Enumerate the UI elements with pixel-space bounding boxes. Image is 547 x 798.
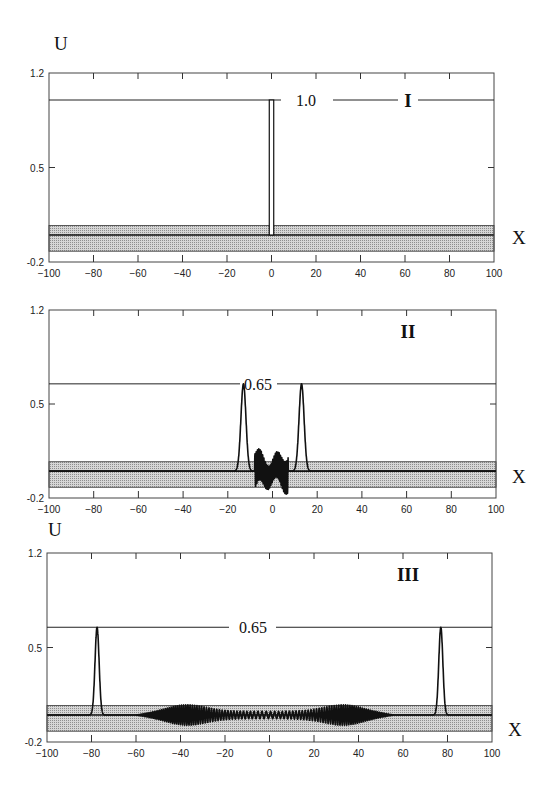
x-tick-label: −40 [175,504,192,515]
x-tick-label: −40 [174,268,191,279]
x-tick-label: 0 [269,268,275,279]
y-axis-name: U [54,33,68,54]
x-tick-label: 20 [312,504,324,515]
x-axis-name: X [512,466,526,487]
figure: U −100−80−60−40−20020406080100-0.20.51.2… [0,0,547,798]
x-tick-label: 40 [356,504,368,515]
panel-label: III [397,564,419,585]
x-tick-label: 20 [308,748,320,759]
y-tick-label: -0.2 [27,257,45,268]
reference-line-label: 0.65 [239,619,267,636]
x-tick-label: −60 [130,504,147,515]
x-tick-label: 80 [446,504,458,515]
x-tick-label: 100 [488,504,505,515]
reference-line-label: 1.0 [296,92,316,109]
x-tick-label: −20 [219,268,236,279]
pulse-curve [269,100,273,235]
y-tick-label: 1.2 [30,305,44,316]
x-tick-label: 60 [397,748,409,759]
x-tick-label: −80 [83,748,100,759]
panel-label: I [404,90,411,111]
y-tick-label: -0.2 [27,493,45,504]
x-tick-label: −20 [217,748,234,759]
x-axis-name: X [508,719,522,740]
x-tick-label: 80 [442,748,454,759]
y-axis-name: U [48,519,62,540]
panel-label: II [401,321,416,342]
x-tick-label: 40 [355,268,367,279]
x-tick-label: 0 [267,748,273,759]
x-tick-label: −60 [130,268,147,279]
panel-I: −100−80−60−40−20020406080100-0.20.51.21.… [27,68,503,279]
x-tick-label: 20 [310,268,322,279]
x-tick-label: 60 [399,268,411,279]
x-tick-label: −100 [38,504,61,515]
x-tick-label: 40 [353,748,365,759]
reference-line-label: 0.65 [244,376,272,393]
y-tick-label: 0.5 [28,643,42,654]
x-axis-name: X [512,227,526,248]
y-tick-label: 1.2 [30,68,44,79]
y-tick-label: 0.5 [30,163,44,174]
x-tick-label: 100 [486,268,503,279]
x-tick-label: −40 [172,748,189,759]
x-tick-label: −60 [128,748,145,759]
x-tick-label: 100 [484,748,501,759]
panel-II: −100−80−60−40−20020406080100-0.20.51.20.… [27,305,505,515]
x-tick-label: −100 [36,748,59,759]
y-tick-label: 0.5 [30,399,44,410]
x-tick-label: 60 [401,504,413,515]
panel-III: −100−80−60−40−20020406080100-0.20.51.20.… [25,548,501,759]
x-tick-label: −80 [85,268,102,279]
y-tick-label: 1.2 [28,548,42,559]
x-tick-label: 0 [270,504,276,515]
x-tick-label: −80 [85,504,102,515]
y-tick-label: -0.2 [25,737,43,748]
x-tick-label: −100 [38,268,61,279]
x-tick-label: −20 [219,504,236,515]
x-tick-label: 80 [444,268,456,279]
